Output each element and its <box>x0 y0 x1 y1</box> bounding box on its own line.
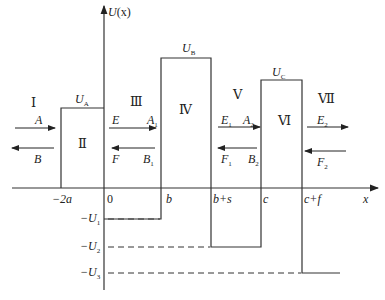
amp-B2: B2 <box>248 153 259 168</box>
tick-minus-U1: −U1 <box>80 212 100 227</box>
tick-0: 0 <box>107 193 113 205</box>
amp-A: A <box>35 114 42 126</box>
amp-A1: A1 <box>147 114 158 129</box>
region-IV: Ⅳ <box>179 103 192 116</box>
tick-c: c <box>263 193 268 205</box>
UA-label: UA <box>75 93 89 108</box>
region-V: Ⅴ <box>233 88 242 101</box>
amp-B1: B1 <box>143 153 154 168</box>
UC-label: UC <box>272 66 285 81</box>
amp-F: F <box>112 153 119 165</box>
tick-c-plus-f: c+f <box>304 193 321 205</box>
amp-B: B <box>34 153 41 165</box>
y-axis-label: U(x) <box>108 6 131 18</box>
region-I: Ⅰ <box>31 96 36 109</box>
tick-b-plus-s: b+s <box>213 193 232 205</box>
tick-minus-U2: −U2 <box>80 240 100 255</box>
region-VII: Ⅶ <box>318 92 335 105</box>
tick-minus-U3: −U3 <box>80 266 100 281</box>
x-axis-label: x <box>363 193 368 205</box>
region-III: Ⅲ <box>130 95 143 108</box>
amp-F2: F2 <box>317 156 328 171</box>
tick-b: b <box>166 193 172 205</box>
amp-E1: E1 <box>221 114 232 129</box>
amp-A2: A2 <box>243 114 254 129</box>
amp-E: E <box>112 114 119 126</box>
region-II: Ⅱ <box>78 137 87 150</box>
amp-F1: F1 <box>221 153 232 168</box>
UB-label: UB <box>182 42 195 57</box>
region-VI: Ⅵ <box>278 114 291 127</box>
tick-minus-2a: −2a <box>52 193 72 205</box>
amp-E2: E2 <box>317 114 328 129</box>
